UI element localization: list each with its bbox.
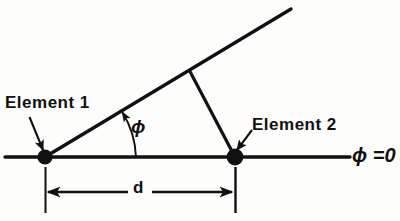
spacing-distance-label: d xyxy=(133,178,144,198)
antenna-array-geometry-figure: Element 1 Element 2 ϕ =0 ϕ d xyxy=(0,0,400,221)
element-1-point-marker xyxy=(37,149,52,164)
element-2-label: Element 2 xyxy=(252,115,337,135)
phi-equals-zero-label: ϕ =0 xyxy=(352,144,396,167)
path-difference-perpendicular-line xyxy=(191,73,236,158)
element-1-leader-arrow xyxy=(30,117,44,150)
element-2-point-marker xyxy=(227,149,244,166)
phi-angle-label: ϕ xyxy=(131,116,146,138)
element-1-label: Element 1 xyxy=(5,93,90,113)
element-2-leader-arrow xyxy=(237,130,252,150)
